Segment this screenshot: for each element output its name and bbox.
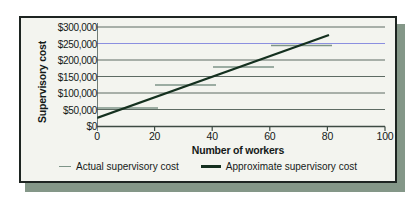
y-tick-label: $200,000 (27, 55, 97, 66)
x-tick-label: 80 (322, 130, 333, 142)
chart-legend: Actual supervisory cost Approximate supe… (21, 161, 395, 172)
y-tick-label: $100,000 (27, 88, 97, 99)
approximate-line-swatch-icon (201, 165, 221, 167)
plot-canvas (97, 23, 387, 135)
legend-item-actual: Actual supervisory cost (59, 161, 179, 172)
chart-figure-root: Supervisory cost $300,000 $250,000 $200,… (0, 0, 417, 202)
x-tick-label: 60 (264, 130, 275, 142)
actual-line-swatch-icon (59, 166, 71, 168)
legend-label-actual: Actual supervisory cost (76, 161, 179, 172)
gridlines (97, 27, 385, 110)
y-tick-label: $300,000 (27, 22, 97, 33)
y-tick-label: $250,000 (27, 38, 97, 49)
x-axis-title: Number of workers (93, 144, 383, 156)
figure-frame: Supervisory cost $300,000 $250,000 $200,… (19, 16, 397, 183)
legend-label-approximate: Approximate supervisory cost (226, 161, 357, 172)
x-axis-tick-labels: 0 20 40 60 80 100 (21, 130, 399, 144)
y-tick-label: $50,000 (27, 104, 97, 115)
x-tick-label: 100 (377, 130, 394, 142)
y-tick-label: $150,000 (27, 71, 97, 82)
y-axis-tick-labels: $300,000 $250,000 $200,000 $150,000 $100… (21, 18, 97, 118)
legend-item-approximate: Approximate supervisory cost (201, 161, 357, 172)
x-tick-label: 40 (207, 130, 218, 142)
plot-area-wrapper: Supervisory cost $300,000 $250,000 $200,… (21, 18, 395, 181)
x-tick-label: 0 (94, 130, 100, 142)
x-tick-label: 20 (149, 130, 160, 142)
